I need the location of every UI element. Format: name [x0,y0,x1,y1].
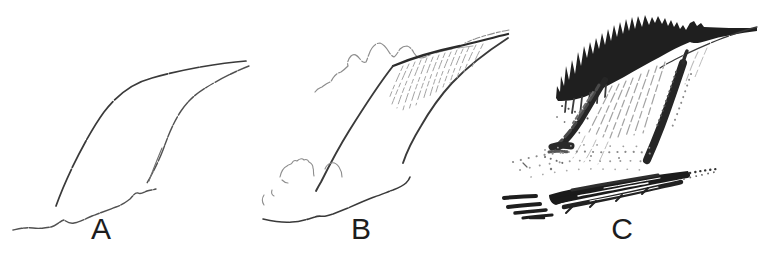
panel-label-a: A [83,214,119,244]
cliff-left-edge-line [56,61,246,206]
panel-label-c: C [604,214,640,244]
waterfall-drawing-stages-figure: A B C [0,0,758,260]
panel-label-b: B [343,214,379,244]
water-base-line [263,177,410,222]
falls-left-edge [316,66,393,191]
far-bank-wedge [690,21,757,43]
cliff-right-edge-line [147,66,249,183]
tree-silhouette-mass [556,15,690,101]
sketch-stage-b [263,30,510,222]
falling-water-streaks [389,44,483,110]
sketch-stage-a [13,61,249,230]
cliff-right-edge-retrace [149,148,162,181]
foreground-rocks [504,169,716,218]
spray-dots [513,145,652,177]
sketch-stage-c [504,15,757,218]
right-shadow-band [647,51,691,160]
rock-finger-strokes [504,196,552,218]
